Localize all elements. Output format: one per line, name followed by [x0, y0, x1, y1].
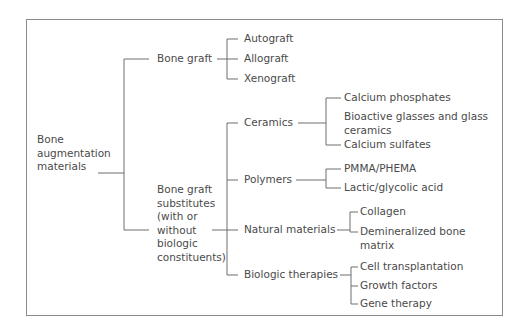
node-allograft: Allograft: [244, 52, 289, 66]
node-calcium-phosphates: Calcium phosphates: [344, 91, 451, 105]
bioactive-line-1: Bioactive glasses and glass: [344, 110, 488, 124]
node-pmma-phema: PMMA/PHEMA: [344, 162, 416, 176]
node-bone-graft: Bone graft: [157, 52, 212, 66]
substitutes-line-6: constituents): [157, 251, 226, 265]
root-line-2: augmentation: [37, 147, 111, 161]
node-root: Bone augmentation materials: [37, 133, 111, 174]
node-polymers: Polymers: [244, 173, 292, 187]
node-xenograft: Xenograft: [244, 72, 295, 86]
node-biologic-therapies: Biologic therapies: [244, 268, 338, 282]
node-calcium-sulfates: Calcium sulfates: [344, 138, 431, 152]
substitutes-line-5: biologic: [157, 237, 226, 251]
root-line-3: materials: [37, 160, 111, 174]
substitutes-line-4: without: [157, 224, 226, 238]
node-natural-materials: Natural materials: [244, 223, 335, 237]
node-collagen: Collagen: [360, 205, 406, 219]
node-autograft: Autograft: [244, 32, 293, 46]
root-line-1: Bone: [37, 133, 111, 147]
substitutes-line-3: (with or: [157, 210, 226, 224]
node-bone-graft-substitutes: Bone graft substitutes (with or without …: [157, 183, 226, 264]
node-gene-therapy: Gene therapy: [360, 297, 432, 311]
node-cell-transplantation: Cell transplantation: [360, 260, 463, 274]
substitutes-line-1: Bone graft: [157, 183, 226, 197]
substitutes-line-2: substitutes: [157, 197, 226, 211]
node-demineralized-bone-matrix: Demineralized bone matrix: [360, 225, 466, 252]
dbm-line-1: Demineralized bone: [360, 225, 466, 239]
node-lactic-glycolic-acid: Lactic/glycolic acid: [344, 181, 443, 195]
node-ceramics: Ceramics: [244, 116, 293, 130]
node-bioactive-glasses: Bioactive glasses and glass ceramics: [344, 110, 488, 137]
dbm-line-2: matrix: [360, 239, 466, 253]
bioactive-line-2: ceramics: [344, 124, 488, 138]
node-growth-factors: Growth factors: [360, 279, 438, 293]
